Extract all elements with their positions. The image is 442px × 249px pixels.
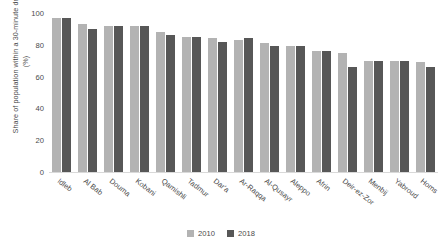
bar-2018[interactable] — [322, 51, 331, 172]
bar-2018[interactable] — [166, 35, 175, 172]
bar-group — [153, 13, 179, 172]
legend-item[interactable]: 2010 — [187, 229, 215, 238]
y-axis-tick-labels: 100806040200 — [22, 13, 44, 172]
x-label-slot: Homs — [412, 174, 438, 220]
bar-group — [412, 13, 438, 172]
x-label-slot: Deir-ez-Zor — [334, 174, 360, 220]
x-label-slot: Idleb — [49, 174, 75, 220]
legend-swatch-icon — [187, 230, 194, 237]
x-label-slot: Dar'a — [205, 174, 231, 220]
bar-group — [101, 13, 127, 172]
x-label-slot: Kobani — [127, 174, 153, 220]
legend-item[interactable]: 2018 — [227, 229, 255, 238]
bar-2010[interactable] — [182, 37, 191, 172]
bar-2010[interactable] — [78, 24, 87, 172]
bar-2010[interactable] — [52, 18, 61, 172]
bar-2010[interactable] — [130, 26, 139, 172]
bar-2010[interactable] — [208, 38, 217, 172]
x-axis-label: Afrin — [315, 176, 333, 193]
x-label-slot: Aleppo — [282, 174, 308, 220]
bar-2010[interactable] — [234, 40, 243, 172]
plot-area — [49, 13, 438, 172]
bar-2018[interactable] — [192, 37, 201, 172]
bar-2018[interactable] — [348, 67, 357, 172]
legend-label: 2010 — [198, 229, 215, 238]
bar-2010[interactable] — [260, 43, 269, 172]
x-label-slot: Tadmur — [179, 174, 205, 220]
bar-2018[interactable] — [244, 38, 253, 172]
bar-groups — [49, 13, 438, 172]
x-label-slot: Al-Qusayr — [257, 174, 283, 220]
y-tick-label: 80 — [22, 40, 44, 49]
legend-label: 2018 — [238, 229, 255, 238]
bar-2018[interactable] — [218, 42, 227, 172]
x-label-slot: Douma — [101, 174, 127, 220]
bar-group — [49, 13, 75, 172]
bar-2018[interactable] — [114, 26, 123, 172]
x-axis-label: Dar'a — [211, 176, 230, 194]
bar-group — [231, 13, 257, 172]
bar-group — [386, 13, 412, 172]
bar-group — [75, 13, 101, 172]
x-label-slot: Qamishli — [153, 174, 179, 220]
x-label-slot: Afrin — [308, 174, 334, 220]
bar-2010[interactable] — [104, 26, 113, 172]
bar-group — [308, 13, 334, 172]
bar-2018[interactable] — [270, 46, 279, 172]
bar-group — [205, 13, 231, 172]
x-label-slot: Al Bab — [75, 174, 101, 220]
x-axis-category-labels: IdlebAl BabDoumaKobaniQamishliTadmurDar'… — [49, 174, 438, 220]
bar-2010[interactable] — [156, 32, 165, 172]
bar-2018[interactable] — [62, 18, 71, 172]
x-axis-label: Homs — [419, 176, 440, 195]
y-tick-label: 0 — [22, 168, 44, 177]
bar-2018[interactable] — [88, 29, 97, 172]
y-tick-label: 60 — [22, 72, 44, 81]
bar-2010[interactable] — [338, 53, 347, 172]
bar-2018[interactable] — [140, 26, 149, 172]
x-label-slot: Ar-Raqqa — [231, 174, 257, 220]
bar-group — [127, 13, 153, 172]
legend-swatch-icon — [227, 230, 234, 237]
bar-2010[interactable] — [312, 51, 321, 172]
bar-group — [334, 13, 360, 172]
x-label-slot: Menbij — [360, 174, 386, 220]
bar-chart: Share of population within a 30-minute d… — [0, 0, 442, 249]
bar-2018[interactable] — [400, 61, 409, 172]
chart-legend: 20102018 — [0, 229, 442, 238]
bar-group — [179, 13, 205, 172]
bar-2010[interactable] — [364, 61, 373, 172]
y-tick-label: 40 — [22, 104, 44, 113]
y-tick-label: 20 — [22, 136, 44, 145]
x-axis-label: Idleb — [56, 176, 74, 193]
bar-2018[interactable] — [296, 46, 305, 172]
y-tick-label: 100 — [22, 9, 44, 18]
x-label-slot: Yabroud — [386, 174, 412, 220]
bar-2010[interactable] — [390, 61, 399, 172]
bar-2018[interactable] — [374, 61, 383, 172]
bar-2010[interactable] — [286, 46, 295, 172]
bar-2010[interactable] — [416, 62, 425, 172]
x-axis-baseline — [49, 172, 438, 173]
bar-group — [360, 13, 386, 172]
bar-group — [257, 13, 283, 172]
bar-2018[interactable] — [426, 67, 435, 172]
bar-group — [282, 13, 308, 172]
